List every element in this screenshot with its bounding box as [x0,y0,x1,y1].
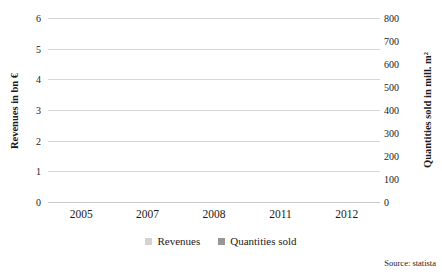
chart: 0123456 0100200300400500600700800 Revenu… [0,0,442,272]
category-group-2007 [114,19,180,203]
category-group-2005 [48,19,114,203]
right-axis-tick-label: 100 [384,175,399,185]
right-axis-tick-labels: 0100200300400500600700800 [384,19,424,203]
source-note: Source: statista [384,258,436,268]
legend-item-revenues: Revenues [145,235,200,247]
left-axis-tick-label: 6 [36,14,41,24]
left-axis-tick-label: 1 [36,167,41,177]
right-axis-tick-label: 700 [384,37,399,47]
right-axis-title: Quantities sold in mill. m² [422,52,433,168]
revenues-legend-swatch-icon [145,238,152,245]
legend-label: Revenues [157,235,200,247]
left-axis-tick-label: 5 [36,45,41,55]
category-group-2011 [247,19,313,203]
legend-label: Quantities sold [230,235,296,247]
right-axis-tick-label: 0 [384,198,389,208]
x-axis-label-2011: 2011 [247,208,313,220]
legend-item-quantities-sold: Quantities sold [218,235,296,247]
right-axis-tick-label: 400 [384,106,399,116]
plot-bars [48,19,380,203]
x-axis-label-2008: 2008 [181,208,247,220]
left-axis-tick-label: 0 [36,198,41,208]
left-axis-tick-labels: 0123456 [0,19,44,203]
right-axis-tick-label: 500 [384,83,399,93]
x-axis-label-2012: 2012 [314,208,380,220]
x-axis-labels: 20052007200820112012 [48,208,380,220]
left-axis-title: Revenues in bn € [9,73,20,149]
right-axis-tick-label: 300 [384,129,399,139]
left-axis-tick-label: 4 [36,75,41,85]
quantities-legend-swatch-icon [218,238,225,245]
legend: Revenues Quantities sold [0,235,442,247]
right-axis-tick-label: 200 [384,152,399,162]
category-group-2012 [314,19,380,203]
x-axis-label-2007: 2007 [114,208,180,220]
x-axis-label-2005: 2005 [48,208,114,220]
left-axis-tick-label: 2 [36,137,41,147]
right-axis-tick-label: 600 [384,60,399,70]
right-axis-tick-label: 800 [384,14,399,24]
category-group-2008 [181,19,247,203]
left-axis-tick-label: 3 [36,106,41,116]
